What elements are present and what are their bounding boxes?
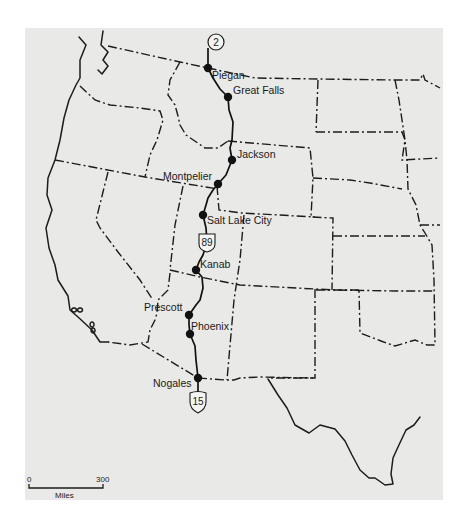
interstate-shield-15: 15 bbox=[190, 392, 206, 414]
svg-text:Nogales: Nogales bbox=[153, 377, 192, 389]
scale-bar: 0 300 Miles bbox=[27, 475, 110, 500]
state-border bbox=[96, 172, 153, 300]
svg-text:Montpelier: Montpelier bbox=[163, 170, 213, 182]
svg-text:Great Falls: Great Falls bbox=[233, 84, 284, 96]
svg-text:Prescott: Prescott bbox=[144, 301, 183, 313]
city-phoenix: Phoenix bbox=[186, 320, 230, 338]
city-nogales: Nogales bbox=[153, 374, 202, 389]
coastline-layer bbox=[46, 31, 420, 485]
svg-text:Piegan: Piegan bbox=[212, 69, 245, 81]
state-border bbox=[170, 186, 183, 270]
coastline bbox=[268, 379, 420, 485]
scale-start-label: 0 bbox=[27, 475, 32, 484]
state-border bbox=[142, 344, 198, 378]
state-border bbox=[170, 270, 433, 291]
state-border bbox=[268, 289, 315, 378]
shield-label: 89 bbox=[201, 237, 213, 248]
city-jackson: Jackson bbox=[228, 148, 276, 164]
city-salt-lake-city: Salt Lake City bbox=[199, 211, 273, 226]
city-great-falls: Great Falls bbox=[224, 84, 285, 101]
state-border bbox=[316, 132, 440, 160]
svg-text:Kanab: Kanab bbox=[200, 258, 231, 270]
state-border bbox=[359, 80, 435, 346]
shield-label: 2 bbox=[213, 37, 219, 48]
state-border bbox=[108, 46, 440, 88]
us-route-shield-89: 89 bbox=[199, 234, 215, 252]
state-border bbox=[80, 86, 163, 177]
svg-text:Salt Lake City: Salt Lake City bbox=[207, 214, 273, 226]
scale-unit-label: Miles bbox=[55, 491, 74, 500]
coastline bbox=[72, 308, 96, 333]
state-border bbox=[316, 80, 318, 132]
state-border bbox=[227, 215, 244, 380]
state-border bbox=[217, 186, 315, 217]
shield-label: 15 bbox=[192, 396, 204, 407]
svg-text:Phoenix: Phoenix bbox=[191, 320, 230, 332]
svg-text:Jackson: Jackson bbox=[237, 148, 276, 160]
state-border bbox=[313, 178, 402, 189]
state-borders-layer bbox=[55, 46, 440, 380]
city-prescott: Prescott bbox=[144, 301, 193, 319]
coastline bbox=[46, 31, 108, 342]
route-shield-2: 2 bbox=[208, 34, 224, 50]
scale-end-label: 300 bbox=[96, 475, 110, 484]
route-map: 2 89 15 Piegan Great Falls Jackson Montp… bbox=[0, 0, 465, 527]
